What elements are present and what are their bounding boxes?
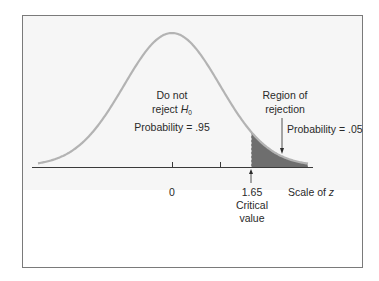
value-label: value (239, 212, 264, 224)
reject-h0-label: reject H0 (152, 103, 192, 116)
critical-label: Critical (236, 199, 268, 211)
probability-accept-label: Probability = .95 (134, 121, 210, 133)
region-of-label: Region of (263, 89, 308, 101)
do-not-label: Do not (157, 89, 188, 101)
scale-of-z-label: Scale of z (288, 186, 335, 198)
rejection-label: rejection (265, 103, 305, 115)
probability-reject-label: Probability = .05 (287, 123, 363, 135)
tick-zero-label: 0 (169, 186, 175, 198)
lower-panel (23, 190, 362, 267)
tick-critical-label: 1.65 (242, 186, 263, 198)
normal-distribution-diagram: Do not reject H0 Probability = .95 Regio… (0, 0, 379, 281)
